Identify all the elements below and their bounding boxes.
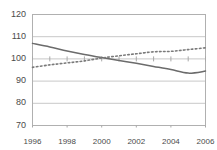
plot-frame	[33, 15, 206, 126]
y-tick-label-90: 90	[2, 76, 26, 85]
plot-border	[33, 15, 206, 126]
x-axis-ticks	[33, 56, 206, 127]
y-tick-label-110: 110	[2, 32, 26, 41]
y-tick-label-70: 70	[2, 121, 26, 130]
x-tick-label-1996: 1996	[18, 137, 48, 146]
gridlines-group	[33, 37, 206, 104]
y-tick-label-80: 80	[2, 98, 26, 107]
x-tick-label-1998: 1998	[52, 137, 82, 146]
y-tick-label-120: 120	[2, 10, 26, 19]
x-tick-label-2002: 2002	[121, 137, 151, 146]
x-tick-label-2000: 2000	[87, 137, 117, 146]
x-tick-label-2006: 2006	[191, 137, 217, 146]
chart-plot-area	[0, 0, 216, 150]
y-tick-label-100: 100	[2, 54, 26, 63]
x-tick-label-2004: 2004	[156, 137, 186, 146]
line-chart: 120110100908070 199619982000200220042006	[0, 0, 216, 150]
